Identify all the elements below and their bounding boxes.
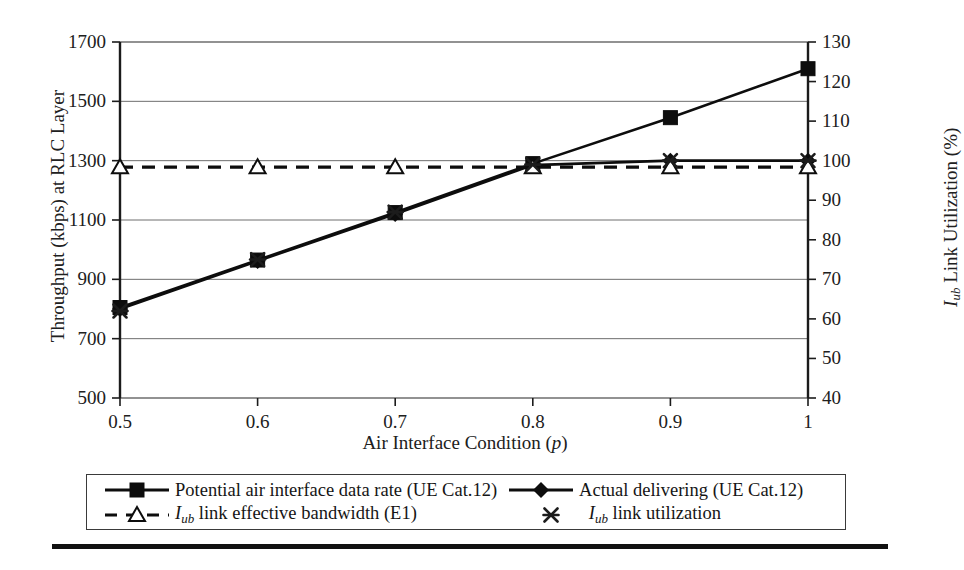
x-axis-title-symbol: p [552,432,562,453]
legend-label-subscript: ub [595,511,608,526]
legend-label-text: link effective bandwidth (E1) [194,503,417,523]
data-point-cross [543,509,558,522]
legend-label: Potential air interface data rate (UE Ca… [175,480,497,501]
legend-label: Iub link utilization [589,503,721,527]
legend-marker-square-icon [99,477,175,503]
y-axis-right-title: Iub Link Utilization (%) [940,37,964,397]
y-tick-label-right: 80 [822,230,874,249]
x-tick-label: 0.7 [365,412,425,431]
series-3 [113,154,816,317]
legend-label: Actual delivering (UE Cat.12) [579,480,803,501]
legend-row: Potential air interface data rate (UE Ca… [87,477,847,503]
y-tick-label-right: 120 [822,72,874,91]
legend-marker-diamond-icon [503,477,579,503]
series-line [120,161,808,309]
x-axis-title-paren: ) [561,432,567,453]
y-tick-label-right: 60 [822,309,874,328]
data-point-square [801,62,815,76]
y-axis-right-title-text: Link Utilization (%) [940,128,961,288]
y-tick-label-right: 90 [822,190,874,209]
legend-marker-triangle-dashed-icon [99,502,175,528]
data-point-square [663,111,677,125]
x-tick-label: 0.9 [640,412,700,431]
y-axis-right-title-subscript: ub [948,288,963,301]
legend-row: Iub link effective bandwidth (E1) Iub li… [87,502,847,528]
x-axis-title: Air Interface Condition (p) [250,432,680,454]
series-1 [112,153,816,317]
legend-item-iub-effective-bandwidth[interactable]: Iub link effective bandwidth (E1) [99,502,417,528]
y-tick-label-right: 110 [822,111,874,130]
y-tick-label-right: 50 [822,348,874,367]
legend-label: Iub link effective bandwidth (E1) [175,503,417,527]
x-tick-label: 1 [778,412,838,431]
chart-legend: Potential air interface data rate (UE Ca… [86,474,846,530]
data-point-diamond [533,482,549,498]
x-axis-title-text: Air Interface Condition ( [362,432,551,453]
legend-label-text: link utilization [608,503,721,523]
y-tick-label-right: 40 [822,388,874,407]
legend-marker-cross-icon [513,502,589,528]
legend-item-actual-delivering[interactable]: Actual delivering (UE Cat.12) [503,477,803,503]
legend-item-iub-link-utilization[interactable]: Iub link utilization [513,502,721,528]
y-axis-left-title: Throughput (kbps) at RLC Layer [47,36,69,396]
x-tick-label: 0.6 [228,412,288,431]
legend-item-potential-data-rate[interactable]: Potential air interface data rate (UE Ca… [99,477,497,503]
y-tick-label-right: 130 [822,32,874,51]
data-point-square [130,483,144,497]
y-tick-label-right: 70 [822,269,874,288]
x-tick-label: 0.8 [503,412,563,431]
footer-rule [52,544,888,549]
series-0 [113,62,815,315]
y-axis-right-title-symbol: I [940,301,961,307]
x-tick-label: 0.5 [90,412,150,431]
y-tick-label-right: 100 [822,151,874,170]
legend-label-subscript: ub [181,511,194,526]
